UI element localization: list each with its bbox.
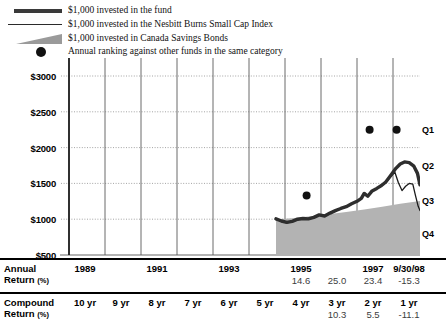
annual-ranking-dot [366, 126, 374, 134]
table-header-cell: 1991 [146, 263, 167, 274]
table-value-cell: 23.4 [364, 275, 383, 286]
y-axis-tick: $1500 [31, 178, 56, 189]
table-header-cell: 10 yr [74, 297, 96, 308]
table-value-cell: 25.0 [328, 275, 347, 286]
gray-wedge-swatch-icon [0, 32, 62, 45]
table-header-cell: 1995 [290, 263, 311, 274]
y-axis-tick: $2000 [31, 142, 56, 153]
legend-item-csb: $1,000 invested in Canada Savings Bonds [0, 32, 228, 45]
table-header-cell: 4 yr [293, 297, 310, 308]
table-header-cell: 2 yr [365, 297, 382, 308]
quartile-label-q1: Q1 [422, 125, 434, 135]
table-header-cell: 9/30/98 [393, 263, 425, 274]
thick-line-swatch-icon [0, 4, 62, 17]
table-value-cell: 5.5 [366, 309, 379, 320]
table-header-cell: 1 yr [401, 297, 418, 308]
returns-table: Annual Return (%) 198919911993199514.625… [0, 258, 446, 333]
table-header-cell: 7 yr [185, 297, 202, 308]
y-axis-tick: $1000 [31, 214, 56, 225]
legend-label-index: $1,000 invested in the Nesbitt Burns Sma… [68, 19, 273, 30]
table-value-cell: 10.3 [328, 309, 347, 320]
quartile-label-q4: Q4 [422, 229, 434, 239]
table-header-cell: 1993 [218, 263, 239, 274]
performance-chart: $3000$2500$2000$1500$1000$500 Q1Q2Q3Q4 [0, 58, 446, 262]
annual-ranking-dot [393, 126, 401, 134]
legend-item-index: $1,000 invested in the Nesbitt Burns Sma… [0, 18, 273, 31]
legend-item-fund: $1,000 invested in the fund [0, 4, 172, 17]
legend-label-ranking: Annual ranking against other funds in th… [68, 46, 283, 57]
y-axis-tick: $2500 [31, 106, 56, 117]
chart-legend: $1,000 invested in the fund $1,000 inves… [0, 0, 446, 58]
compound-return-row-label: Compound Return (%) [4, 297, 54, 320]
table-rule-middle [0, 292, 446, 294]
quartile-label-q3: Q3 [422, 196, 434, 206]
legend-label-csb: $1,000 invested in Canada Savings Bonds [68, 33, 228, 44]
legend-item-ranking: Annual ranking against other funds in th… [0, 45, 283, 58]
table-value-cell: -15.3 [398, 275, 420, 286]
plot-area [60, 58, 420, 262]
table-header-cell: 6 yr [221, 297, 238, 308]
quartile-labels: Q1Q2Q3Q4 [420, 58, 446, 262]
thin-line-swatch-icon [0, 18, 62, 31]
y-axis-tick: $3000 [31, 71, 56, 82]
annual-ranking-dot [303, 192, 311, 200]
table-header-cell: 5 yr [257, 297, 274, 308]
legend-label-fund: $1,000 invested in the fund [68, 5, 172, 16]
annual-return-row-label: Annual Return (%) [4, 263, 49, 286]
table-header-cell: 9 yr [113, 297, 130, 308]
table-header-cell: 1997 [362, 263, 383, 274]
table-rule-top [0, 258, 446, 260]
table-header-cell: 8 yr [149, 297, 166, 308]
table-header-cell: 3 yr [329, 297, 346, 308]
y-axis-labels: $3000$2500$2000$1500$1000$500 [0, 58, 60, 262]
plot-svg [60, 58, 420, 262]
table-value-cell: 14.6 [292, 275, 311, 286]
black-dot-swatch-icon [0, 45, 62, 58]
quartile-label-q2: Q2 [422, 161, 434, 171]
table-value-cell: -11.1 [399, 309, 420, 320]
table-header-cell: 1989 [74, 263, 95, 274]
